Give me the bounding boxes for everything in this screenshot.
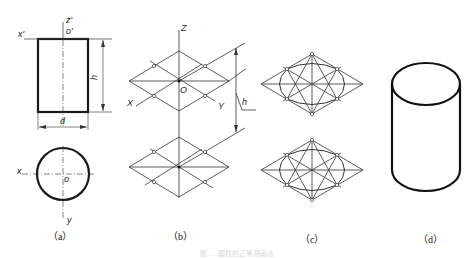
- d-arrow-right: [80, 125, 87, 129]
- label-h: h: [89, 75, 99, 80]
- label-x: x: [16, 166, 22, 176]
- caption-b: （b）: [168, 231, 193, 242]
- cylinder-top-ellipse: [392, 63, 460, 105]
- panel-a-orthographic-views: x' z' o' h d x o y （a）: [16, 15, 112, 242]
- y-axis-extension: [229, 70, 244, 81]
- bottom-center-point: [178, 166, 181, 169]
- origin-point: [178, 80, 181, 83]
- h-arrow-bottom-b: [234, 125, 238, 132]
- panel-c-four-center-ellipse: [261, 54, 363, 200]
- h-arrow-top: [101, 40, 105, 47]
- label-Y: Y: [218, 101, 225, 111]
- h-arrow-bottom: [101, 104, 105, 111]
- d-arrow-left: [39, 125, 46, 129]
- figure-caption: 图 … 圆柱的正等测画法: [200, 249, 274, 258]
- caption-d: （d）: [418, 234, 443, 245]
- label-O: O: [180, 85, 187, 95]
- panel-b-isometric-axes: [129, 30, 256, 198]
- label-o: o: [64, 174, 69, 184]
- label-Z: Z: [180, 23, 187, 33]
- label-z-prime: z': [65, 15, 73, 25]
- label-X: X: [126, 98, 134, 108]
- caption-a: （a）: [48, 231, 72, 242]
- bottom-reference-line: [179, 128, 245, 167]
- x-axis: [136, 64, 202, 106]
- cylinder-bottom-arc: [392, 170, 460, 191]
- label-y: y: [66, 215, 72, 225]
- caption-c: （c）: [300, 234, 324, 245]
- top-reference-line: [179, 43, 245, 81]
- label-h-b: h: [242, 97, 247, 107]
- label-d: d: [60, 116, 66, 126]
- cylinder-isometric-figure: x' z' o' h d x o y （a）: [0, 0, 470, 258]
- panel-d-finished-cylinder: [392, 63, 460, 191]
- label-o-prime: o': [66, 26, 73, 36]
- label-x-prime: x': [17, 29, 25, 39]
